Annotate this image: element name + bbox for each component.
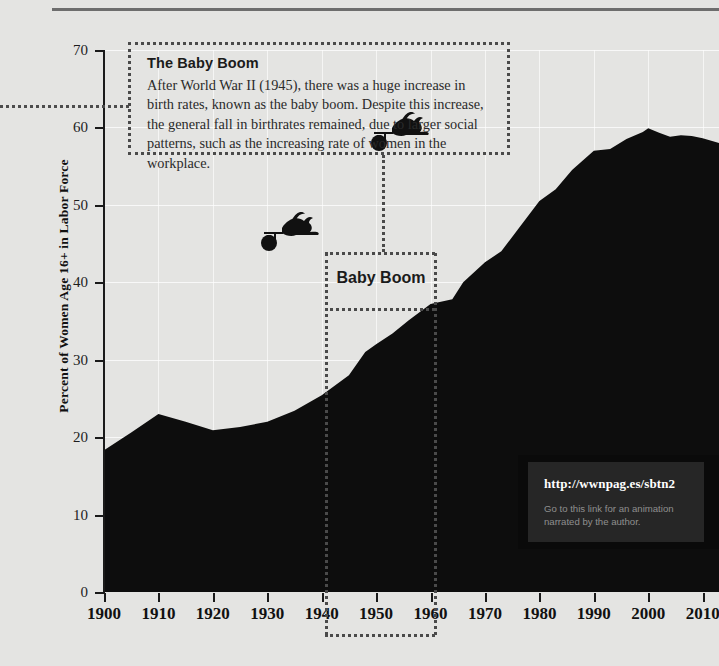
y-axis-tick bbox=[95, 437, 104, 439]
url-callout[interactable]: http://wwnpag.es/sbtn2 Go to this link f… bbox=[528, 462, 704, 542]
x-axis-tick bbox=[485, 593, 487, 602]
y-axis-tick bbox=[95, 127, 104, 129]
x-axis-tick-label: 1980 bbox=[509, 604, 569, 624]
figure-root: 010203040506070 Percent of Women Age 16+… bbox=[0, 0, 719, 666]
y-axis-title: Percent of Women Age 16+ in Labor Force bbox=[56, 156, 72, 416]
x-axis-tick-label: 1920 bbox=[183, 604, 243, 624]
x-axis-tick-label: 1910 bbox=[128, 604, 188, 624]
y-axis-tick-label: 0 bbox=[48, 584, 88, 601]
annotation-connector-line bbox=[382, 155, 385, 252]
x-axis-tick-label: 1970 bbox=[455, 604, 515, 624]
x-axis-tick bbox=[376, 593, 378, 602]
x-axis-tick bbox=[104, 593, 106, 602]
x-axis-tick bbox=[703, 593, 705, 602]
x-axis-tick-label: 1950 bbox=[346, 604, 406, 624]
x-axis-tick bbox=[648, 593, 650, 602]
x-axis-tick bbox=[539, 593, 541, 602]
x-axis-tick-label: 1930 bbox=[237, 604, 297, 624]
x-axis-tick-label: 1990 bbox=[564, 604, 624, 624]
annotation-body: After World War II (1945), there was a h… bbox=[147, 76, 491, 173]
x-axis-tick-label: 2010 bbox=[673, 604, 719, 624]
x-axis-tick bbox=[158, 593, 160, 602]
y-axis-tick bbox=[95, 282, 104, 284]
x-axis-tick bbox=[267, 593, 269, 602]
x-axis-tick bbox=[594, 593, 596, 602]
x-axis-tick bbox=[213, 593, 215, 602]
y-axis-tick bbox=[95, 50, 104, 52]
baby-boom-band-label: Baby Boom bbox=[330, 269, 432, 287]
y-axis-tick bbox=[95, 592, 104, 594]
annotation-title: The Baby Boom bbox=[147, 55, 491, 71]
x-axis-tick bbox=[322, 593, 324, 602]
baby-boom-annotation-box: The Baby Boom After World War II (1945),… bbox=[128, 42, 510, 155]
y-axis-tick-label: 10 bbox=[48, 506, 88, 523]
y-axis-tick bbox=[95, 360, 104, 362]
baby-boom-label-separator bbox=[325, 308, 435, 311]
y-axis-tick-label: 70 bbox=[48, 42, 88, 59]
url-caption: Go to this link for an animation narrate… bbox=[544, 502, 688, 528]
y-axis-tick-label: 60 bbox=[48, 119, 88, 136]
x-axis-tick-label: 1960 bbox=[401, 604, 461, 624]
baby-boom-band-top-edge bbox=[325, 252, 435, 255]
top-rule-divider bbox=[52, 8, 719, 11]
annotation-leader-line bbox=[0, 105, 129, 108]
x-axis-tick-label: 2000 bbox=[618, 604, 678, 624]
y-axis-tick bbox=[95, 205, 104, 207]
url-link[interactable]: http://wwnpag.es/sbtn2 bbox=[544, 476, 688, 492]
y-axis-tick-label: 20 bbox=[48, 429, 88, 446]
y-axis-tick bbox=[95, 515, 104, 517]
baby-boom-band-bottom-edge bbox=[325, 634, 435, 637]
y-axis-line bbox=[103, 50, 105, 593]
x-axis-tick-label: 1940 bbox=[292, 604, 352, 624]
x-axis-tick-label: 1900 bbox=[74, 604, 134, 624]
x-axis-tick bbox=[431, 593, 433, 602]
stork-carrying-bundle-icon bbox=[252, 208, 320, 256]
